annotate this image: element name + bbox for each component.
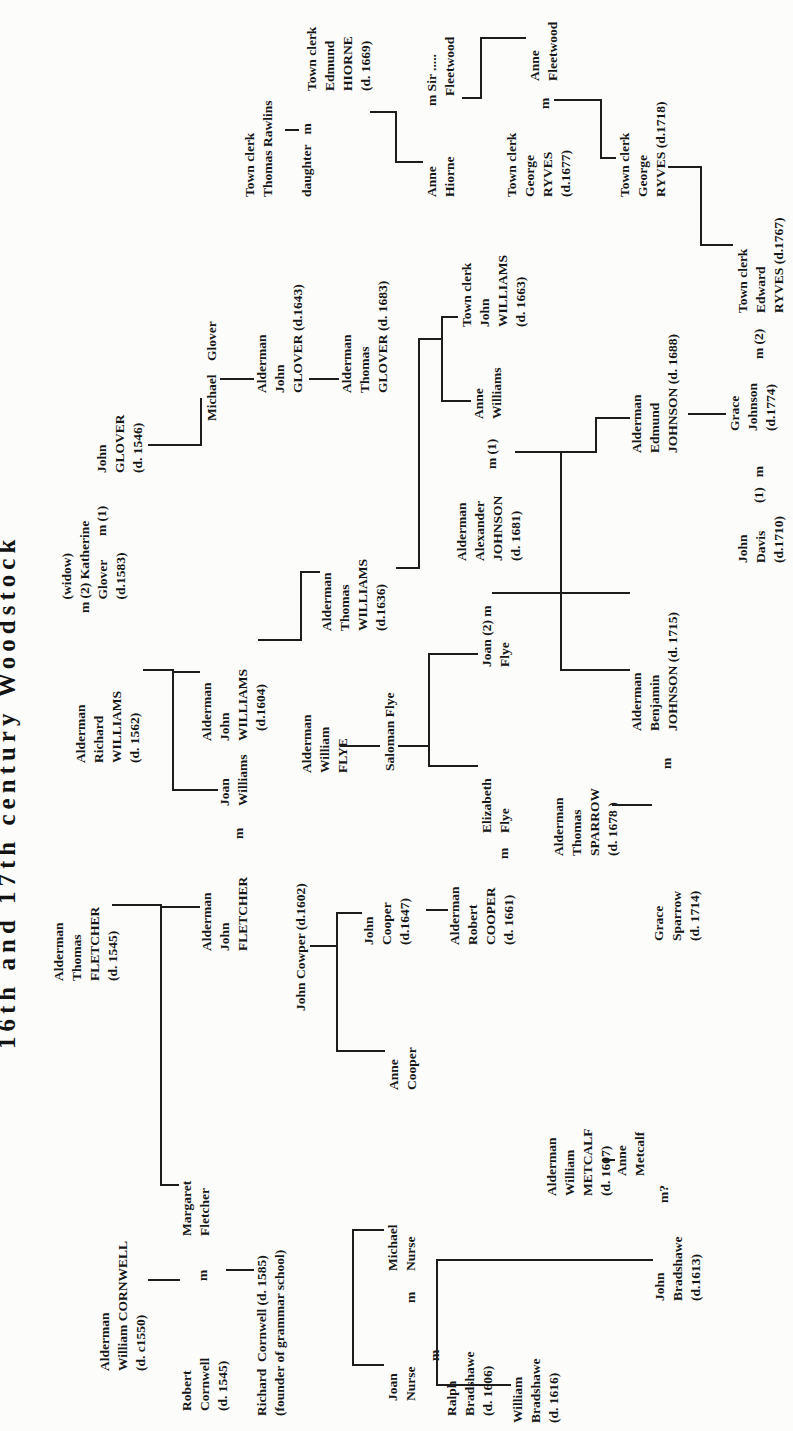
connector-line xyxy=(258,639,302,641)
person-node-thomas-sparrow: Alderman Thomas SPARROW (d. 1678 ) xyxy=(550,788,622,856)
person-node-john-cowper: John Cowper (d.1602) xyxy=(292,883,310,1011)
connector-line xyxy=(300,571,302,641)
connector-line xyxy=(352,1229,354,1366)
connector-line xyxy=(441,400,471,402)
person-node-john-williams-1604: Alderman John WILLIAMS (d.1604) xyxy=(198,669,270,741)
connector-line xyxy=(352,1229,384,1231)
connector-line xyxy=(340,745,380,747)
connector-line xyxy=(160,1184,179,1186)
person-node-sir-fleetwood: m Sir ..... Fleetwood xyxy=(423,37,459,106)
connector-line xyxy=(160,906,200,908)
person-node-john-cooper-1647: John Cooper (d.1647) xyxy=(360,898,414,945)
person-node-m-cooper-elizabeth: m xyxy=(495,848,513,859)
connector-line xyxy=(612,804,652,806)
person-node-michael-glover: Michael Glover xyxy=(203,321,221,421)
connector-line xyxy=(554,99,600,101)
connector-line xyxy=(309,378,339,380)
connector-line xyxy=(515,451,597,453)
person-node-daughter-m: daughter m xyxy=(298,123,316,197)
connector-line xyxy=(172,671,200,673)
connector-line xyxy=(436,1259,438,1386)
connector-line xyxy=(285,129,299,131)
person-node-thomas-glover-1683: Alderman Thomas GLOVER (d. 1683) xyxy=(338,281,392,393)
person-node-richard-williams: Alderman Richard WILLIAMS (d. 1562) xyxy=(72,691,144,763)
connector-line xyxy=(396,567,420,569)
person-node-anne-williams: Anne Williams xyxy=(470,367,506,419)
person-node-michael-nurse: Michael Nurse xyxy=(384,1225,420,1272)
connector-line xyxy=(310,945,338,947)
connector-line xyxy=(426,909,448,911)
person-node-john-bradshawe: John Bradshawe (d.1613) xyxy=(651,1236,705,1301)
connector-line xyxy=(441,316,443,402)
person-node-edmund-johnson: Alderman Edmund JOHNSON (d. 1688) xyxy=(628,334,682,453)
connector-line xyxy=(418,338,420,569)
person-node-thomas-rawlins: Town clerk Thomas Rawlins xyxy=(241,101,277,197)
connector-line xyxy=(172,669,174,791)
connector-line xyxy=(336,912,362,914)
person-node-john-williams-1663: Town clerk John WILLIAMS (d. 1663) xyxy=(458,255,530,327)
person-node-edmund-hiorne: Town clerk Edmund HIORNE (d. 1669) xyxy=(303,27,375,91)
scanned-page: 16th and 17th century Woodstock Alderman… xyxy=(0,0,793,1431)
person-node-robert-cooper: Alderman Robert COOPER (d. 1661) xyxy=(446,887,518,946)
person-node-elizabeth-flye: Elizabeth Flye xyxy=(478,778,514,833)
chart-title: 16th and 17th century Woodstock xyxy=(0,535,21,1049)
person-node-margaret-fletcher: Margaret Fletcher xyxy=(178,1181,214,1236)
connector-line xyxy=(143,669,174,671)
person-node-m-robert-margaret: m xyxy=(194,1270,212,1281)
connector-line xyxy=(436,1384,511,1386)
connector-line xyxy=(370,111,397,113)
person-node-anne-hiorne: Anne Hiorne xyxy=(423,157,459,198)
connector-line xyxy=(395,111,397,163)
person-node-thomas-fletcher: Alderman Thomas FLETCHER (d. 1545) xyxy=(50,907,122,981)
connector-line xyxy=(148,444,202,446)
person-node-william-bradshawe: William Bradshawe (d. 1616) xyxy=(509,1358,563,1423)
person-node-grace-johnson: Grace Johnson (d.1774) xyxy=(726,383,780,431)
connector-line xyxy=(600,99,602,159)
person-node-robert-cornwell: Robert Cornwell (d. 1545) xyxy=(178,1358,232,1411)
person-node-richard-cornwell: Richard Cornwell (d. 1585) (founder of g… xyxy=(253,1250,289,1416)
connector-line xyxy=(668,166,700,168)
person-node-william-cornwell: Alderman William CORNWELL (d. c1550) xyxy=(96,1241,150,1371)
person-node-george-ryves-1677: Town clerk George RYVES (d.1677) xyxy=(503,133,575,197)
connector-line xyxy=(700,244,733,246)
person-node-john-fletcher: Alderman John FLETCHER xyxy=(198,877,252,951)
person-node-william-flye: Alderman William FLYE xyxy=(298,715,352,774)
person-node-william-metcalf: Alderman William METCALF (d. 1607) xyxy=(543,1129,615,1197)
connector-line xyxy=(480,37,526,39)
person-node-john-davis: John Davis (d.1710) xyxy=(734,516,788,563)
person-node-m-joan-ralph: m xyxy=(426,1350,444,1361)
person-node-edward-ryves: Town clerk Edward RYVES (d.1767) xyxy=(734,217,788,313)
connector-line xyxy=(595,417,597,453)
connector-line xyxy=(700,166,702,246)
connector-line xyxy=(336,1050,385,1052)
person-node-saloman-flye: Saloman Flye xyxy=(381,693,399,771)
person-node-anne-metcalf: Anne Metcalf xyxy=(613,1132,649,1176)
person-node-anne-cooper: Anne Cooper xyxy=(385,1047,421,1090)
person-node-alexander-johnson: Alderman Alexander JOHNSON (d. 1681) xyxy=(453,496,525,561)
connector-line xyxy=(428,653,430,767)
person-node-joan-nurse: Joan Nurse xyxy=(384,1367,420,1402)
connector-line xyxy=(462,97,480,99)
connector-line xyxy=(200,398,202,446)
person-node-m2-grace-ryves: m (2) xyxy=(750,329,768,359)
connector-line xyxy=(160,904,162,1186)
person-node-grace-sparrow: Grace Sparrow (d. 1714) xyxy=(650,891,704,941)
connector-line xyxy=(560,451,562,671)
person-node-m-fletcher-joan: m xyxy=(230,828,248,839)
person-node-benjamin-johnson: Alderman Benjamin JOHNSON (d. 1715) xyxy=(628,612,682,731)
connector-line xyxy=(148,1279,180,1281)
connector-line xyxy=(441,316,458,318)
connector-line xyxy=(300,571,320,573)
person-node-john-glover-1546: John GLOVER (d. 1546) xyxy=(93,414,147,473)
connector-line xyxy=(480,37,482,99)
connector-line xyxy=(428,653,478,655)
person-node-george-ryves-1718: Town clerk George RYVES (d.1718) xyxy=(616,101,670,197)
connector-line xyxy=(418,338,443,340)
connector-line xyxy=(492,592,630,594)
person-node-m-grace-benjamin: m xyxy=(658,758,676,769)
connector-line xyxy=(226,1269,254,1271)
connector-line xyxy=(395,161,423,163)
connector-line xyxy=(600,157,616,159)
rotated-chart-canvas: 16th and 17th century Woodstock Alderman… xyxy=(0,0,793,1431)
person-node-anne-fleetwood: Anne Fleetwood xyxy=(526,22,562,81)
